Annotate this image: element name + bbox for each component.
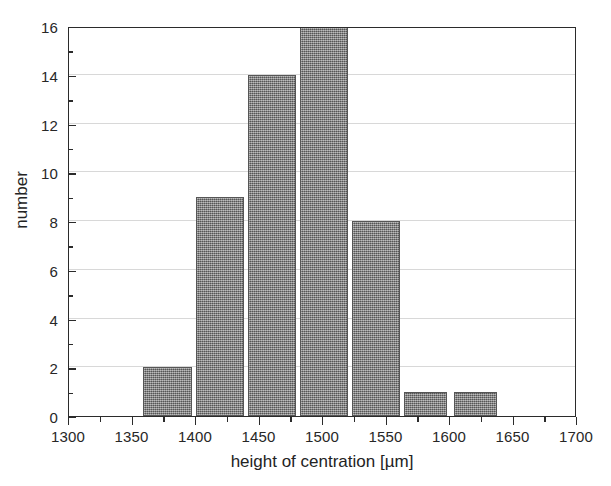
histogram-bar	[143, 367, 193, 416]
y-minor-tick-1	[68, 393, 73, 394]
plot-area	[68, 27, 576, 417]
x-minor-tick-1375	[163, 417, 164, 422]
histogram-bar	[300, 27, 348, 416]
y-major-tick-0	[68, 417, 76, 418]
x-tick-label-1650: 1650	[495, 428, 529, 445]
y-tick-label-2: 2	[12, 360, 58, 377]
y-tick-label-12: 12	[12, 116, 58, 133]
x-major-tick-1550	[386, 417, 387, 425]
x-minor-tick-1525	[354, 417, 355, 422]
y-major-tick-10	[68, 173, 76, 174]
x-tick-label-1700: 1700	[559, 428, 593, 445]
x-tick-label-1550: 1550	[368, 428, 402, 445]
x-major-tick-1350	[132, 417, 133, 425]
y-minor-tick-9	[68, 198, 73, 199]
x-minor-tick-1475	[290, 417, 291, 422]
y-minor-tick-5	[68, 295, 73, 296]
histogram-bar	[352, 221, 400, 416]
y-major-tick-2	[68, 368, 76, 369]
y-minor-tick-13	[68, 100, 73, 101]
y-axis-title: number	[12, 140, 32, 260]
histogram-bar	[404, 392, 447, 416]
x-axis-title: height of centration [µm]	[68, 452, 576, 472]
y-major-tick-16	[68, 27, 76, 28]
y-minor-tick-15	[68, 51, 73, 52]
x-minor-tick-1325	[100, 417, 101, 422]
histogram-bar	[248, 75, 296, 416]
x-tick-label-1300: 1300	[51, 428, 85, 445]
x-major-tick-1650	[513, 417, 514, 425]
x-minor-tick-1575	[417, 417, 418, 422]
x-major-tick-1700	[576, 417, 577, 425]
y-major-tick-12	[68, 125, 76, 126]
x-minor-tick-1675	[544, 417, 545, 422]
x-tick-label-1400: 1400	[178, 428, 212, 445]
y-major-tick-4	[68, 320, 76, 321]
x-minor-tick-1425	[227, 417, 228, 422]
x-major-tick-1500	[322, 417, 323, 425]
histogram-bar	[196, 197, 244, 416]
x-tick-label-1450: 1450	[241, 428, 275, 445]
histogram-bar	[454, 392, 497, 416]
y-tick-label-0: 0	[12, 409, 58, 426]
x-tick-label-1350: 1350	[114, 428, 148, 445]
histogram-figure: 130013501400145015001550160016501700 024…	[0, 0, 611, 486]
y-minor-tick-7	[68, 246, 73, 247]
x-major-tick-1450	[259, 417, 260, 425]
y-tick-label-16: 16	[12, 19, 58, 36]
y-tick-label-6: 6	[12, 262, 58, 279]
y-minor-tick-3	[68, 344, 73, 345]
x-major-tick-1600	[449, 417, 450, 425]
y-major-tick-14	[68, 76, 76, 77]
y-tick-label-4: 4	[12, 311, 58, 328]
x-tick-label-1600: 1600	[432, 428, 466, 445]
x-tick-label-1500: 1500	[305, 428, 339, 445]
x-major-tick-1400	[195, 417, 196, 425]
x-minor-tick-1625	[481, 417, 482, 422]
y-tick-label-14: 14	[12, 67, 58, 84]
y-major-tick-6	[68, 271, 76, 272]
y-minor-tick-11	[68, 149, 73, 150]
y-major-tick-8	[68, 222, 76, 223]
